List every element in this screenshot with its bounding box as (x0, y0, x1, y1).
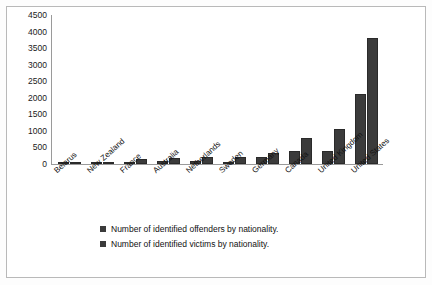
bar-group (157, 15, 181, 164)
bar (103, 162, 115, 164)
y-axis: 450040003500300025002000150010005000 (0, 0, 47, 285)
legend-item-label: Number of identified offenders by nation… (111, 225, 278, 234)
chart-figure: 450040003500300025002000150010005000 Bel… (0, 0, 432, 285)
legend-item: Number of identified victims by national… (100, 240, 350, 249)
legend-item-label: Number of identified victims by national… (111, 240, 269, 249)
bar (235, 157, 247, 164)
legend-swatch-icon (100, 241, 106, 247)
y-axis-tick-label: 2000 (3, 94, 47, 103)
bar (91, 162, 103, 164)
legend-swatch-icon (100, 226, 106, 232)
bar (322, 151, 334, 164)
bar (289, 151, 301, 164)
bar-group (190, 15, 214, 164)
bar-group (322, 15, 346, 164)
bar (301, 138, 313, 164)
bar-group (289, 15, 313, 164)
plot-area (52, 15, 382, 164)
bar-group (223, 15, 247, 164)
bar (157, 161, 169, 164)
y-axis-tick-label: 1500 (3, 110, 47, 119)
bar-group (124, 15, 148, 164)
bar (223, 162, 235, 164)
y-axis-tick-label: 4500 (3, 11, 47, 20)
bar-group (58, 15, 82, 164)
bar (124, 162, 136, 164)
bar (136, 159, 148, 164)
bar (169, 158, 181, 164)
bar (70, 162, 82, 164)
y-axis-tick-label: 1000 (3, 127, 47, 136)
y-axis-tick-label: 500 (3, 143, 47, 152)
bar (268, 153, 280, 164)
bar (367, 38, 379, 164)
bar (256, 157, 268, 164)
bar (58, 162, 70, 164)
y-axis-tick-label: 3500 (3, 44, 47, 53)
legend-item: Number of identified offenders by nation… (100, 225, 350, 234)
bar-group (91, 15, 115, 164)
y-axis-tick-label: 3000 (3, 60, 47, 69)
bar (190, 161, 202, 164)
x-axis-line (51, 164, 383, 165)
y-axis-tick-label: 0 (3, 160, 47, 169)
y-axis-tick-label: 4000 (3, 27, 47, 36)
bar (202, 157, 214, 164)
bar (334, 129, 346, 164)
y-axis-tick-label: 2500 (3, 77, 47, 86)
bar (355, 94, 367, 164)
bar-group (256, 15, 280, 164)
chart-legend: Number of identified offenders by nation… (100, 225, 350, 254)
bar-group (355, 15, 379, 164)
